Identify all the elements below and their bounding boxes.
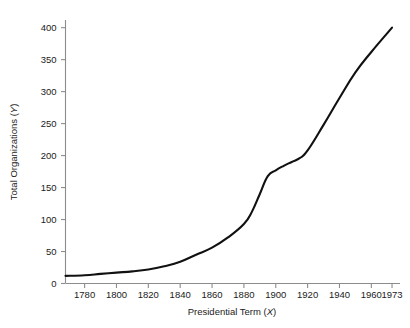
chart-figure: 050100150200250300350400 178018001820184… <box>0 0 410 328</box>
x-tick-label: 1880 <box>233 289 254 300</box>
x-tick-label: 1820 <box>138 289 159 300</box>
x-tick-label: 1840 <box>170 289 191 300</box>
line-chart: 050100150200250300350400 178018001820184… <box>0 0 410 328</box>
x-tick-label: 1960 <box>361 289 382 300</box>
x-tick-group: 1780180018201840186018801900192019401960… <box>74 284 403 301</box>
y-tick-label: 350 <box>41 54 57 65</box>
x-tick-label: 1780 <box>74 289 95 300</box>
x-tick-label: 1800 <box>106 289 127 300</box>
x-axis-title: Presidential Term (X) <box>188 306 277 317</box>
x-tick-label: 1920 <box>297 289 318 300</box>
y-tick-label: 400 <box>41 22 57 33</box>
y-tick-label: 100 <box>41 214 57 225</box>
x-tick-label: 1900 <box>265 289 286 300</box>
y-tick-label: 50 <box>46 246 57 257</box>
axes-group <box>66 20 401 284</box>
y-tick-label: 300 <box>41 86 57 97</box>
x-tick-label: 1940 <box>329 289 350 300</box>
x-tick-label: 1973 <box>381 289 402 300</box>
y-axis-title: Total Organizations (Y) <box>8 104 19 201</box>
y-tick-label: 150 <box>41 182 57 193</box>
y-tick-label: 250 <box>41 118 57 129</box>
y-tick-label: 0 <box>51 278 56 289</box>
axis-symbol: X <box>266 306 274 317</box>
x-tick-label: 1860 <box>201 289 222 300</box>
data-series-line <box>66 28 393 276</box>
y-tick-group: 050100150200250300350400 <box>41 22 66 289</box>
axis-symbol: Y <box>8 106 19 113</box>
y-tick-label: 200 <box>41 150 57 161</box>
